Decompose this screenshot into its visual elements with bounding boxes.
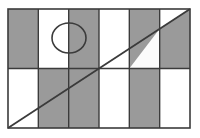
shaded-grid-figure bbox=[0, 0, 200, 138]
cell-r1c1 bbox=[8, 9, 38, 69]
cell-r1c3 bbox=[69, 9, 99, 69]
cell-r2c5 bbox=[129, 69, 159, 129]
